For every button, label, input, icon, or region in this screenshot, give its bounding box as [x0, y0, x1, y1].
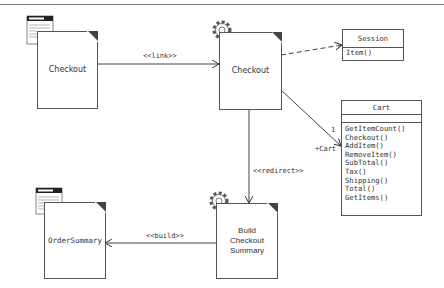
- node-label: OrderSummary: [45, 236, 105, 246]
- node-label: Checkout: [38, 65, 97, 75]
- class-operations: Item(): [343, 48, 403, 59]
- redirect-label: <<redirect>>: [253, 167, 304, 175]
- class-name: Cart: [342, 101, 421, 115]
- checkout-controller-node[interactable]: Checkout: [219, 32, 282, 110]
- multiplicity-label: 1: [331, 126, 335, 134]
- class-operations: GetItemCount() Checkout() AddItem() Remo…: [342, 123, 421, 204]
- cart-class[interactable]: Cart GetItemCount() Checkout() AddItem()…: [341, 100, 422, 216]
- uml-diagram: Checkout Checkout Build Checkout Summary…: [0, 0, 444, 288]
- session-class[interactable]: Session Item(): [342, 29, 404, 61]
- class-name: Session: [343, 30, 403, 48]
- checkout-page-node[interactable]: Checkout: [37, 31, 98, 109]
- cart-association-edge: [281, 90, 341, 146]
- page-fold: [96, 202, 106, 212]
- node-label: Checkout: [220, 66, 281, 76]
- build-checkout-summary-node[interactable]: Build Checkout Summary: [216, 203, 278, 279]
- class-attributes: [342, 115, 421, 123]
- build-label: <<build>>: [146, 232, 184, 240]
- link-label: <<link>>: [143, 52, 177, 60]
- order-summary-page-node[interactable]: OrderSummary: [44, 202, 106, 279]
- node-label: Build Checkout Summary: [217, 226, 277, 256]
- page-fold: [88, 31, 98, 41]
- page-fold: [268, 203, 278, 213]
- page-fold: [272, 32, 282, 42]
- role-label: +Cart: [315, 145, 336, 153]
- session-dependency-edge: [281, 45, 342, 55]
